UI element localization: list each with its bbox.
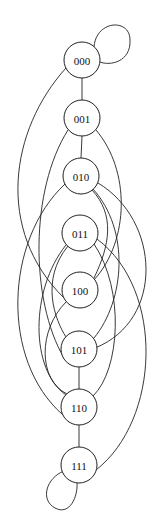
node-101: 101	[61, 331, 97, 367]
node-001: 001	[64, 100, 100, 136]
node-111: 111	[61, 447, 97, 483]
edge-011-111	[96, 239, 146, 470]
edge-001-010	[81, 136, 82, 158]
nodes: 000 001 010 011 100 101 110 111	[61, 42, 100, 483]
svg-text:101: 101	[71, 344, 88, 356]
svg-text:011: 011	[72, 228, 88, 240]
svg-text:100: 100	[72, 285, 89, 297]
node-000: 000	[64, 42, 100, 78]
edge-010-111	[95, 183, 146, 348]
node-011: 011	[62, 215, 98, 251]
edge-011-110	[39, 245, 66, 395]
svg-text:111: 111	[71, 460, 87, 472]
graph-diagram: 000 001 010 011 100 101 110 111	[0, 0, 157, 518]
svg-text:110: 110	[71, 402, 88, 414]
edge-001-100	[94, 130, 121, 280]
svg-text:010: 010	[73, 171, 90, 183]
edge-001-101	[39, 130, 68, 358]
edges	[18, 25, 146, 510]
svg-text:001: 001	[74, 113, 91, 125]
node-110: 110	[61, 389, 97, 425]
node-100: 100	[62, 272, 98, 308]
edge-000-100	[18, 68, 66, 298]
svg-text:000: 000	[74, 55, 91, 67]
node-010: 010	[63, 158, 99, 194]
